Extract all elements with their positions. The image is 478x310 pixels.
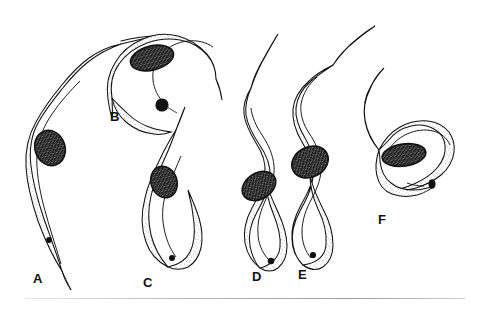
panel-a-undulating-membrane — [37, 81, 80, 264]
panel-label-e: E — [298, 268, 307, 281]
panel-b-free-flagellum — [216, 79, 222, 100]
panel-a-nucleus — [30, 126, 71, 170]
panel-e-organism — [286, 26, 375, 269]
panel-b-organism — [107, 34, 222, 134]
panel-e-kinetoplast — [310, 252, 316, 258]
panel-c-body — [142, 130, 176, 267]
panel-a-posterior-tip — [62, 271, 71, 290]
panel-f-nucleus — [381, 141, 428, 169]
panel-b-posterior-tip — [167, 107, 177, 113]
panel-d-organism — [237, 34, 287, 271]
panel-label-b: B — [110, 110, 120, 123]
panel-e-nucleus — [286, 140, 334, 184]
panel-d-kinetoplast — [268, 258, 275, 265]
panel-e-posterior-lobe — [303, 175, 333, 269]
panel-f-kinetoplast — [428, 179, 435, 189]
panel-c-kinetoplast — [169, 255, 175, 261]
panel-label-d: D — [252, 270, 262, 283]
panel-d-free-flagellum — [251, 34, 278, 88]
panel-f-organism — [364, 68, 454, 196]
panel-label-f: F — [378, 213, 386, 226]
panel-b-kinetoplast — [155, 98, 168, 111]
figure-plate — [0, 0, 478, 310]
panel-a-organism — [26, 36, 158, 290]
panel-label-a: A — [33, 272, 43, 285]
panel-e-free-flagellum — [333, 26, 375, 65]
panel-a-kinetoplast — [46, 237, 52, 243]
panel-label-c: C — [143, 276, 153, 289]
plate-rule — [25, 298, 465, 299]
panel-c-free-flagellum — [176, 107, 185, 130]
panel-f-free-flagellum — [364, 68, 384, 150]
